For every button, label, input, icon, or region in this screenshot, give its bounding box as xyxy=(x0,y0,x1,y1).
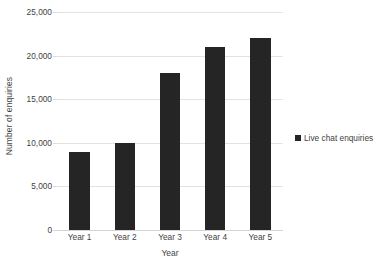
x-axis-tick-label: Year 4 xyxy=(193,232,238,242)
chart-legend: Live chat enquiries xyxy=(295,133,373,143)
bar-slot xyxy=(147,12,192,230)
bar-slot xyxy=(102,12,147,230)
legend-label: Live chat enquiries xyxy=(304,133,373,143)
y-axis-tick-label: 5,000 xyxy=(31,181,52,191)
y-axis-tick-label: 25,000 xyxy=(27,7,52,17)
y-axis-title: Number of enquiries xyxy=(0,0,18,232)
x-axis-title: Year xyxy=(57,248,283,258)
bar[interactable] xyxy=(250,38,270,230)
bar[interactable] xyxy=(115,143,135,230)
bars-layer xyxy=(57,12,283,230)
y-axis-tick-label: 10,000 xyxy=(27,138,52,148)
x-axis-tick-label: Year 3 xyxy=(147,232,192,242)
x-axis-tick-labels: Year 1Year 2Year 3Year 4Year 5 xyxy=(57,232,283,246)
x-axis-tick-label: Year 5 xyxy=(238,232,283,242)
x-axis-tick-label: Year 1 xyxy=(57,232,102,242)
y-axis-tick-label: 20,000 xyxy=(27,51,52,61)
gridline xyxy=(57,230,283,231)
bar[interactable] xyxy=(69,152,89,230)
bar-chart: Number of enquiries 05,00010,00015,00020… xyxy=(0,0,381,268)
x-axis-tick-label: Year 2 xyxy=(102,232,147,242)
bar-slot xyxy=(193,12,238,230)
y-axis-tick-label: 15,000 xyxy=(27,94,52,104)
bar-slot xyxy=(238,12,283,230)
bar[interactable] xyxy=(205,47,225,230)
legend-square-marker-icon xyxy=(295,135,301,141)
y-axis-title-label: Number of enquiries xyxy=(4,77,14,155)
bar[interactable] xyxy=(160,73,180,230)
bar-slot xyxy=(57,12,102,230)
plot-area xyxy=(57,12,283,230)
y-axis-tick-marks xyxy=(50,12,57,230)
